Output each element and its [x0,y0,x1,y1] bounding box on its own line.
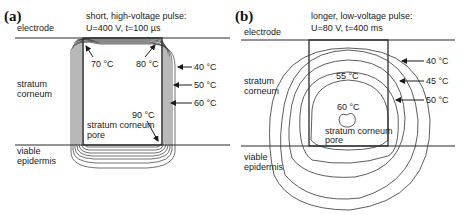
panel-a-isotherms [71,38,175,168]
panel-a-label-70: 70 °C [91,59,114,69]
panel-a-label-40: 40 °C [194,62,217,72]
panel-b-pore-label-2: pore [325,135,343,145]
panel-b-corneum-label: corneum [244,86,279,96]
panel-b: (b) longer, low-voltage pulse: U=80 V, t… [235,8,455,210]
figure-canvas: (a) short, high-voltage pulse: U=400 V, … [0,0,469,215]
panel-b-electrode-label: electrode [244,27,281,37]
panel-b-label-60: 60 °C [337,102,360,112]
panel-a-arrow-80 [145,45,155,57]
panel-b-label-55: 55 °C [336,71,359,81]
panel-b-title-line1: longer, low-voltage pulse: [311,11,413,21]
panel-b-label-40: 40 °C [426,56,449,66]
panel-a-title-line1: short, high-voltage pulse: [86,11,187,21]
panel-b-title-line2: U=80 V, t=400 ms [311,23,383,33]
panel-b-label-45: 45 °C [426,76,449,86]
panel-a-label-80: 80 °C [136,59,159,69]
panel-a-electrode-label: electrode [17,23,54,33]
panel-a-pore-label-2: pore [87,130,105,140]
panel-a-arrow-70 [86,46,93,57]
panel-b-stratum-label: stratum [244,76,274,86]
panel-a-epidermis-label: epidermis [17,156,57,166]
panel-a-stratum-label: stratum [17,79,47,89]
panel-a-viable-label: viable [17,146,41,156]
panel-a-label-50: 50 °C [194,80,217,90]
panel-a-label-90: 90 °C [132,110,155,120]
panel-b-label-50: 50 °C [426,95,449,105]
panel-a-corneum-label: corneum [17,89,52,99]
panel-a: (a) short, high-voltage pulse: U=400 V, … [4,8,230,168]
panel-b-epidermis-label: epidermis [244,162,284,172]
panel-a-title-line2: U=400 V, t=100 µs [86,23,161,33]
panel-b-viable-label: viable [244,152,268,162]
panel-b-tag: (b) [235,8,253,25]
panel-a-label-60: 60 °C [194,98,217,108]
panel-a-pore-label-1: stratum corneum [87,120,155,130]
